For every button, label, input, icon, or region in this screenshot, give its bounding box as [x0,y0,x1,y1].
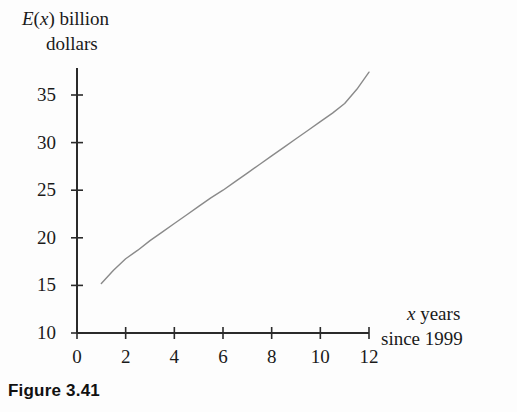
data-curve [101,72,369,283]
y-tick-label: 10 [22,323,56,342]
x-tick-label: 12 [356,347,382,366]
y-tick-label: 20 [22,228,56,247]
figure-caption: Figure 3.41 [8,381,100,401]
x-tick-label: 10 [307,347,333,366]
x-tick-label: 8 [259,347,285,366]
x-axis-title-line2: since 1999 [381,326,463,351]
figure-container: E(x) billion dollars 1015202530350246810… [0,0,517,412]
x-axis-title-unit-word: years [415,303,460,324]
x-tick-label: 6 [210,347,236,366]
y-tick-label: 15 [22,275,56,294]
x-tick-label: 4 [161,347,187,366]
x-tick-label: 2 [113,347,139,366]
x-tick-label: 0 [64,347,90,366]
axes-group [77,68,369,333]
y-tick-label: 35 [22,85,56,104]
y-tick-label: 30 [22,133,56,152]
y-tick-label: 25 [22,180,56,199]
x-axis-title: x years since 1999 [381,301,463,351]
